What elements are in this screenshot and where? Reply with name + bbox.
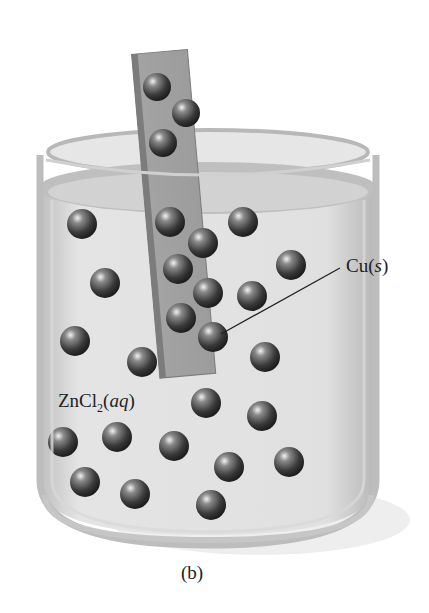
label-cu-s: Cu(s) bbox=[346, 255, 388, 277]
beaker-diagram bbox=[0, 0, 429, 613]
panel-label: (b) bbox=[181, 562, 203, 584]
label-zncl2-aq: ZnCl2(aq) bbox=[58, 390, 135, 416]
